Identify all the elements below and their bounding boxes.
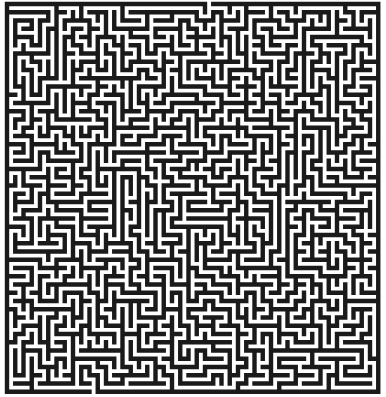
maze	[0, 0, 386, 397]
maze-canvas	[0, 0, 386, 397]
maze-walls	[7, 4, 378, 392]
